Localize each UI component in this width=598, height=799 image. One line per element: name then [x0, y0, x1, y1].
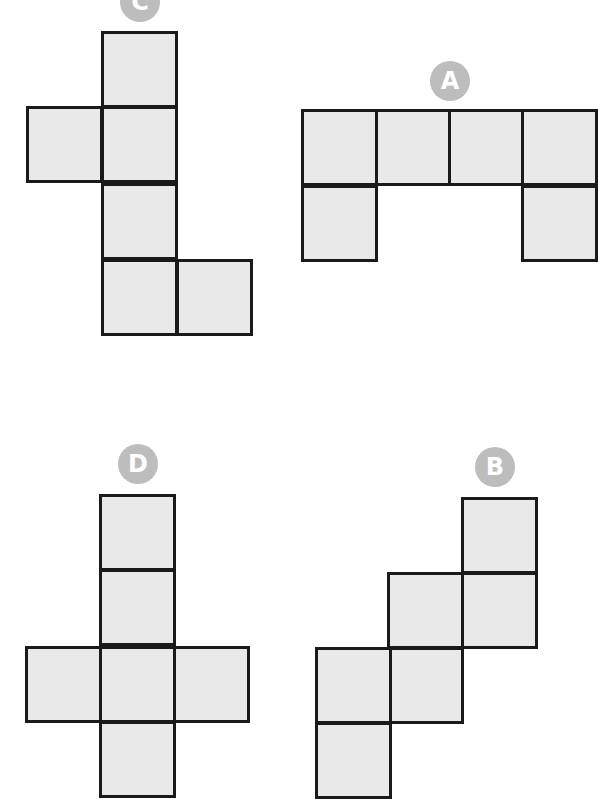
net-b-face	[461, 572, 538, 649]
net-label-d: D	[118, 444, 158, 484]
net-label-b: B	[475, 447, 515, 487]
net-d-face	[25, 646, 102, 723]
net-c-face	[101, 31, 178, 108]
net-d-face	[99, 646, 176, 723]
net-b-face	[387, 572, 464, 649]
net-a-face	[521, 185, 598, 262]
net-c-face	[101, 183, 178, 260]
net-a-face	[301, 185, 378, 262]
net-c-face	[101, 259, 178, 336]
net-d-face	[99, 721, 176, 798]
net-b-face	[315, 722, 392, 799]
net-a-face	[521, 109, 598, 186]
net-c-face	[176, 259, 253, 336]
net-a-face	[448, 109, 525, 186]
net-d-face	[99, 494, 176, 571]
net-c-face	[101, 106, 178, 183]
net-b-face	[315, 647, 392, 724]
net-d-face	[99, 569, 176, 646]
net-a-face	[375, 109, 452, 186]
net-b-face	[387, 647, 464, 724]
net-d-face	[173, 646, 250, 723]
net-b-face	[461, 497, 538, 574]
net-a-face	[301, 109, 378, 186]
net-label-a: A	[430, 61, 470, 101]
net-c-face	[26, 106, 103, 183]
